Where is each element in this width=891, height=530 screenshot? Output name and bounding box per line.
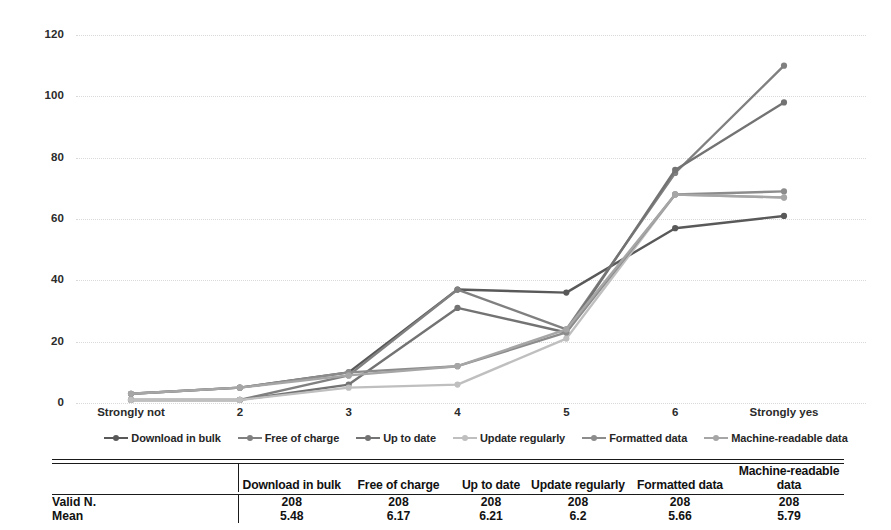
legend-item-label: Up to date — [383, 432, 436, 444]
series-update-regularly — [128, 191, 787, 403]
data-point — [781, 194, 787, 200]
table-row: Mean5.486.176.216.25.665.79 — [52, 509, 844, 523]
table-header-row: Download in bulkFree of chargeUp to date… — [52, 464, 844, 493]
plot-area — [76, 35, 866, 403]
data-point — [128, 397, 134, 403]
x-axis-tick-label: Strongly yes — [749, 407, 818, 419]
line-chart: 020406080100120 Strongly not23456Strongl… — [0, 0, 891, 450]
y-axis-tick-label: 20 — [51, 336, 64, 348]
data-point — [454, 286, 460, 292]
table-column-header: Free of charge — [345, 464, 452, 493]
y-axis: 020406080100120 — [0, 0, 76, 420]
statistics-table-container: Download in bulkFree of chargeUp to date… — [52, 459, 844, 530]
series-line — [131, 102, 784, 399]
legend-item-label: Machine-readable data — [731, 432, 848, 444]
chart-page: 020406080100120 Strongly not23456Strongl… — [0, 0, 891, 530]
data-point — [237, 385, 243, 391]
table-cell: 6.21 — [452, 509, 530, 523]
table-column-header: Download in bulk — [238, 464, 345, 493]
legend-marker-icon — [104, 434, 128, 442]
data-point — [563, 290, 569, 296]
data-point — [346, 385, 352, 391]
table-cell: 208 — [530, 495, 626, 510]
legend-item-label: Download in bulk — [131, 432, 220, 444]
legend-item[interactable]: Free of charge — [238, 432, 339, 444]
legend-item[interactable]: Download in bulk — [104, 432, 220, 444]
series-up-to-date — [128, 99, 787, 403]
x-axis-tick-label: 5 — [563, 407, 569, 419]
data-point — [346, 372, 352, 378]
data-point — [454, 382, 460, 388]
table-cell: 208 — [626, 495, 734, 510]
legend-marker-icon — [704, 434, 728, 442]
data-point — [454, 363, 460, 369]
x-axis-tick-label: 6 — [672, 407, 678, 419]
data-point — [781, 213, 787, 219]
series-layer — [76, 35, 866, 403]
legend-item[interactable]: Formatted data — [582, 432, 687, 444]
table-cell: 5.79 — [734, 509, 844, 523]
legend-item[interactable]: Up to date — [356, 432, 436, 444]
y-axis-tick-label: 80 — [51, 152, 64, 164]
legend-item-label: Free of charge — [265, 432, 339, 444]
data-point — [563, 336, 569, 342]
data-point — [672, 191, 678, 197]
table-row-label: Valid N. — [52, 495, 238, 510]
table-cell: 6.17 — [345, 509, 452, 523]
legend-item-label: Formatted data — [609, 432, 687, 444]
statistics-table: Download in bulkFree of chargeUp to date… — [52, 459, 844, 523]
table-column-header: Up to date — [452, 464, 530, 493]
table-cell: 208 — [734, 495, 844, 510]
x-axis-tick-label: 2 — [237, 407, 243, 419]
table-cell: 208 — [238, 495, 345, 510]
y-axis-tick-label: 100 — [45, 90, 65, 102]
series-machine-readable-data — [128, 191, 787, 397]
table-cell: 208 — [452, 495, 530, 510]
table-column-header: Machine-readable data — [734, 464, 844, 493]
data-point — [672, 167, 678, 173]
table-cell: 6.2 — [530, 509, 626, 523]
y-axis-tick-label: 0 — [58, 397, 65, 409]
data-point — [781, 63, 787, 69]
legend-marker-icon — [582, 434, 606, 442]
data-point — [672, 225, 678, 231]
series-line — [131, 66, 784, 400]
legend-marker-icon — [238, 434, 262, 442]
x-axis-tick-label: 4 — [454, 407, 460, 419]
table-column-header: Update regularly — [530, 464, 626, 493]
data-point — [128, 391, 134, 397]
data-point — [781, 99, 787, 105]
table-cell: 5.48 — [238, 509, 345, 523]
data-point — [454, 305, 460, 311]
table-corner-cell — [52, 464, 238, 493]
legend-marker-icon — [453, 434, 477, 442]
x-axis: Strongly not23456Strongly yes — [76, 407, 866, 427]
x-axis-tick-label: 3 — [345, 407, 351, 419]
table-row-label: Mean — [52, 509, 238, 523]
y-axis-tick-label: 40 — [51, 274, 64, 286]
y-axis-tick-label: 60 — [51, 213, 64, 225]
data-point — [237, 397, 243, 403]
legend-item[interactable]: Update regularly — [453, 432, 565, 444]
series-free-of-charge — [128, 63, 787, 403]
x-axis-tick-label: Strongly not — [97, 407, 165, 419]
gridline — [76, 403, 866, 404]
table-column-header: Formatted data — [626, 464, 734, 493]
chart-legend: Download in bulkFree of chargeUp to date… — [76, 429, 876, 447]
data-point — [563, 326, 569, 332]
legend-marker-icon — [356, 434, 380, 442]
y-axis-tick-label: 120 — [45, 29, 65, 41]
table-cell: 208 — [345, 495, 452, 510]
table-row: Valid N.208208208208208208 — [52, 495, 844, 510]
table-cell: 5.66 — [626, 509, 734, 523]
legend-item-label: Update regularly — [480, 432, 565, 444]
legend-item[interactable]: Machine-readable data — [704, 432, 848, 444]
data-point — [781, 188, 787, 194]
